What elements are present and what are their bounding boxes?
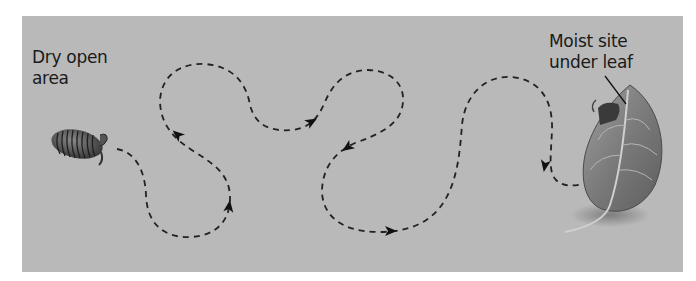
moist-label-line1: Moist site bbox=[549, 31, 633, 52]
arrow-down-icon bbox=[539, 159, 551, 173]
dashed-path-line bbox=[117, 64, 583, 237]
moist-label-line2: under leaf bbox=[549, 52, 633, 73]
dry-open-area-label: Dry open area bbox=[32, 47, 108, 89]
pill-bug-icon bbox=[49, 125, 107, 165]
dry-label-line2: area bbox=[32, 68, 108, 89]
arrow-right-icon bbox=[385, 226, 397, 236]
dry-label-line1: Dry open bbox=[32, 47, 108, 68]
moist-site-label: Moist site under leaf bbox=[549, 31, 633, 73]
path-arrows bbox=[169, 114, 550, 236]
movement-path bbox=[117, 64, 583, 237]
arrow-down-left-icon bbox=[339, 140, 355, 155]
